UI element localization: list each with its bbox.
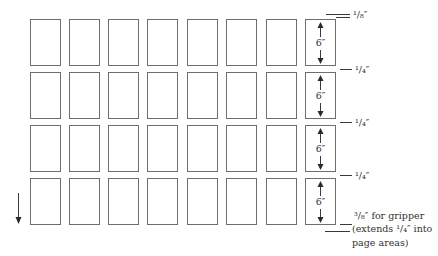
page-r4-c2 — [69, 178, 100, 225]
page-r1-c4 — [147, 19, 178, 66]
page-r2-c2 — [69, 72, 100, 119]
page-r1-c2 — [69, 19, 100, 66]
page-r2-c6 — [226, 72, 257, 119]
top-margin-label: ¹/₈″ — [353, 9, 367, 20]
imposition-diagram: 6″ 6″ 6″ 6″ ¹/₈″ ¹/₄″ ¹/₄″ ¹/₄″ ³/₈″ for… — [0, 0, 438, 256]
page-r1-c7 — [266, 19, 297, 66]
page-r4-c7 — [266, 178, 297, 225]
page-r4-c6 — [226, 178, 257, 225]
page-r4-c4 — [147, 178, 178, 225]
gripper-note-line-2: (extends ¹/₄″ into — [352, 223, 432, 234]
page-r1-c5 — [187, 19, 218, 66]
page-r4-c3 — [108, 178, 139, 225]
page-r3-c2 — [69, 125, 100, 172]
page-r1-c1 — [30, 19, 61, 66]
gripper-note-line-3: page areas) — [352, 237, 409, 248]
page-r3-c1 — [30, 125, 61, 172]
gap-label-1: ¹/₄″ — [355, 64, 369, 75]
page-r2-c4 — [147, 72, 178, 119]
page-r2-c5 — [187, 72, 218, 119]
page-r1-c3 — [108, 19, 139, 66]
down-arrow-icon — [16, 217, 22, 224]
page-r4-c1 — [30, 178, 61, 225]
page-r4-c5 — [187, 178, 218, 225]
gap-label-2: ¹/₄″ — [355, 117, 369, 128]
page-r3-c5 — [187, 125, 218, 172]
page-height-label-row-3: 6″ — [305, 144, 336, 154]
page-r3-c7 — [266, 125, 297, 172]
gap-label-3: ¹/₄″ — [355, 170, 369, 181]
page-r2-c7 — [266, 72, 297, 119]
page-r3-c3 — [108, 125, 139, 172]
gripper-note-line-1: ³/₈″ for gripper — [354, 210, 424, 221]
page-height-label-row-1: 6″ — [305, 38, 336, 48]
page-r2-c3 — [108, 72, 139, 119]
page-r3-c6 — [226, 125, 257, 172]
page-height-label-row-2: 6″ — [305, 91, 336, 101]
page-r2-c1 — [30, 72, 61, 119]
page-r3-c4 — [147, 125, 178, 172]
page-r1-c6 — [226, 19, 257, 66]
page-height-label-row-4: 6″ — [305, 197, 336, 207]
